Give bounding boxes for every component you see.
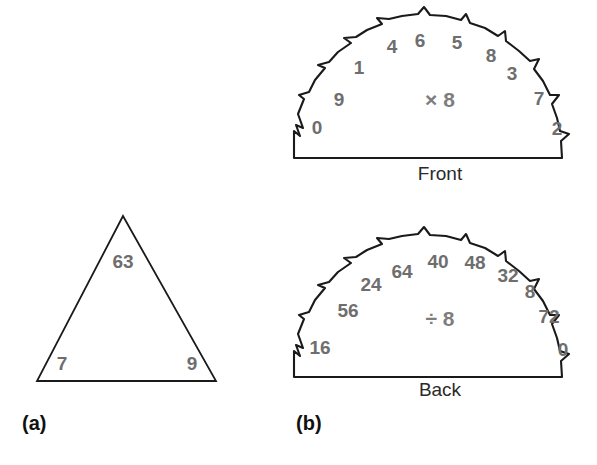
back-dial-number-1: 56 — [337, 300, 358, 322]
front-dial-group — [294, 7, 569, 158]
back-dial-operation: ÷ 8 — [390, 307, 490, 331]
back-dial-number-4: 40 — [427, 251, 448, 273]
back-dial-number-8: 72 — [538, 306, 559, 328]
front-dial-number-2: 1 — [354, 57, 365, 79]
front-dial-operation: × 8 — [390, 88, 490, 112]
figure-canvas: (a) (b) 63 7 9 × 8 Front ÷ 8 Back 091465… — [0, 0, 597, 465]
back-dial-number-6: 32 — [497, 265, 518, 287]
front-dial-number-5: 5 — [452, 32, 463, 54]
front-dial-number-6: 8 — [486, 45, 497, 67]
front-dial-number-7: 3 — [507, 63, 518, 85]
back-dial-caption: Back — [385, 379, 495, 401]
front-dial-number-1: 9 — [334, 89, 345, 111]
triangle-bottom-left-number: 7 — [57, 353, 68, 375]
triangle-top-number: 63 — [112, 251, 133, 273]
front-dial-outline — [294, 7, 569, 158]
back-dial-number-9: 0 — [558, 339, 569, 361]
back-dial-number-3: 64 — [391, 261, 412, 283]
back-dial-number-2: 24 — [360, 274, 381, 296]
back-dial-number-0: 16 — [309, 337, 330, 359]
front-dial-caption: Front — [385, 163, 495, 185]
back-dial-number-5: 48 — [464, 252, 485, 274]
front-dial-number-0: 0 — [312, 117, 323, 139]
front-dial-number-8: 7 — [534, 88, 545, 110]
panel-label-a: (a) — [22, 412, 46, 435]
front-dial-number-3: 4 — [387, 36, 398, 58]
front-dial-number-9: 2 — [552, 118, 563, 140]
back-dial-number-7: 8 — [525, 281, 536, 303]
front-dial-number-4: 6 — [415, 30, 426, 52]
panel-label-b: (b) — [296, 412, 322, 435]
triangle-bottom-right-number: 9 — [187, 353, 198, 375]
